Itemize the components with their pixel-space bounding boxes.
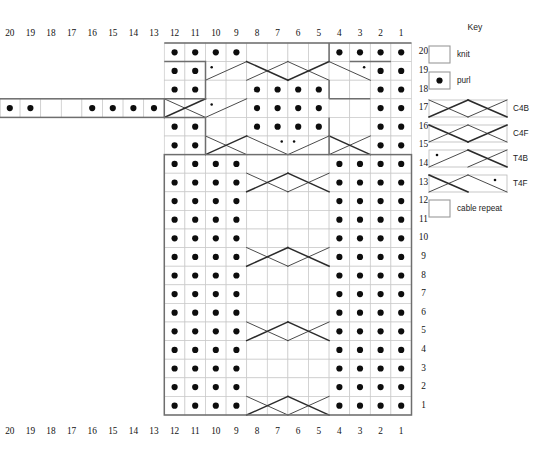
- chart-cell: [288, 173, 309, 192]
- purl-symbol: [336, 179, 342, 185]
- row-number-14: 14: [419, 158, 429, 168]
- purl-symbol: [233, 272, 239, 278]
- row-number-3: 3: [421, 363, 426, 373]
- purl-symbol: [336, 254, 342, 260]
- key-swatch-c4f: [429, 125, 507, 142]
- purl-symbol: [336, 291, 342, 297]
- chart-cell: [288, 359, 309, 378]
- row-number-5: 5: [421, 325, 426, 335]
- chart-cell: [288, 43, 309, 62]
- row-number-20: 20: [419, 46, 429, 56]
- purl-symbol: [357, 217, 363, 223]
- chart-cell: [206, 136, 227, 155]
- purl-symbol: [192, 365, 198, 371]
- row-number-9: 9: [421, 251, 426, 261]
- purl-symbol: [357, 310, 363, 316]
- purl-symbol: [398, 347, 404, 353]
- purl-symbol: [7, 105, 13, 111]
- purl-symbol: [233, 403, 239, 409]
- column-number-top-20: 20: [5, 28, 15, 38]
- purl-symbol: [357, 161, 363, 167]
- purl-symbol: [398, 49, 404, 55]
- purl-symbol: [213, 365, 219, 371]
- purl-symbol: [233, 161, 239, 167]
- purl-symbol: [378, 272, 384, 278]
- column-number-bottom-5: 5: [316, 426, 321, 436]
- key-item-purl[interactable]: purl: [429, 72, 471, 89]
- key-item-t4f[interactable]: T4F: [429, 175, 528, 192]
- chart-cell: [226, 80, 247, 99]
- row-number-10: 10: [419, 232, 429, 242]
- purl-symbol: [336, 310, 342, 316]
- purl-symbol: [192, 310, 198, 316]
- key-item-t4b[interactable]: T4B: [429, 150, 529, 167]
- purl-symbol: [233, 198, 239, 204]
- chart-cell: [288, 155, 309, 174]
- key-swatch-c4b: [429, 100, 507, 117]
- purl-symbol: [357, 328, 363, 334]
- chart-cell: [309, 173, 330, 192]
- column-number-top-6: 6: [296, 28, 301, 38]
- chart-cell: [164, 99, 185, 118]
- purl-symbol: [398, 217, 404, 223]
- purl-symbol: [398, 179, 404, 185]
- key-item-c4f[interactable]: C4F: [429, 125, 528, 142]
- column-number-top-19: 19: [26, 28, 36, 38]
- purl-symbol: [378, 217, 384, 223]
- chart-cell: [288, 341, 309, 360]
- purl-symbol: [172, 179, 178, 185]
- purl-symbol: [172, 68, 178, 74]
- purl-symbol: [336, 365, 342, 371]
- chart-cell: [288, 303, 309, 322]
- column-number-bottom-12: 12: [170, 426, 180, 436]
- chart-cell: [267, 43, 288, 62]
- chart-cell: [309, 136, 330, 155]
- key-item-cable_repeat[interactable]: cable repeat: [429, 200, 503, 217]
- column-number-top-5: 5: [316, 28, 321, 38]
- column-number-bottom-8: 8: [255, 426, 260, 436]
- purl-symbol: [336, 272, 342, 278]
- chart-cell: [309, 43, 330, 62]
- purl-symbol: [233, 254, 239, 260]
- purl-symbol: [336, 384, 342, 390]
- key-item-c4b[interactable]: C4B: [429, 100, 529, 117]
- purl-symbol: [151, 105, 157, 111]
- column-number-top-13: 13: [149, 28, 159, 38]
- purl-symbol: [213, 403, 219, 409]
- chart-cell: [247, 378, 268, 397]
- purl-symbol: [213, 235, 219, 241]
- purl-symbol: [192, 198, 198, 204]
- column-number-bottom-4: 4: [337, 426, 342, 436]
- purl-symbol: [378, 403, 384, 409]
- purl-symbol: [436, 77, 442, 83]
- purl-symbol: [254, 86, 260, 92]
- purl-symbol: [398, 272, 404, 278]
- purl-symbol: [172, 272, 178, 278]
- chart-cell: [247, 359, 268, 378]
- row-number-15: 15: [419, 139, 429, 149]
- chart-cell: [61, 99, 82, 118]
- purl-symbol: [27, 105, 33, 111]
- purl-symbol: [357, 365, 363, 371]
- purl-symbol: [192, 254, 198, 260]
- purl-symbol: [295, 124, 301, 130]
- column-number-top-10: 10: [211, 28, 221, 38]
- purl-symbol: [172, 124, 178, 130]
- purl-symbol: [378, 291, 384, 297]
- chart-cell: [41, 99, 62, 118]
- purl-symbol: [172, 235, 178, 241]
- purl-symbol: [336, 403, 342, 409]
- chart-cell: [247, 136, 268, 155]
- purl-symbol: [378, 68, 384, 74]
- column-number-bottom-14: 14: [129, 426, 139, 436]
- chart-cell: [350, 136, 371, 155]
- purl-symbol: [172, 347, 178, 353]
- purl-symbol: [357, 198, 363, 204]
- key-item-knit[interactable]: knit: [429, 46, 470, 63]
- purl-symbol: [378, 254, 384, 260]
- chart-cell: [247, 229, 268, 248]
- purl-symbol: [378, 347, 384, 353]
- purl-symbol: [357, 291, 363, 297]
- chart-cell: [247, 285, 268, 304]
- chart-cell: [267, 378, 288, 397]
